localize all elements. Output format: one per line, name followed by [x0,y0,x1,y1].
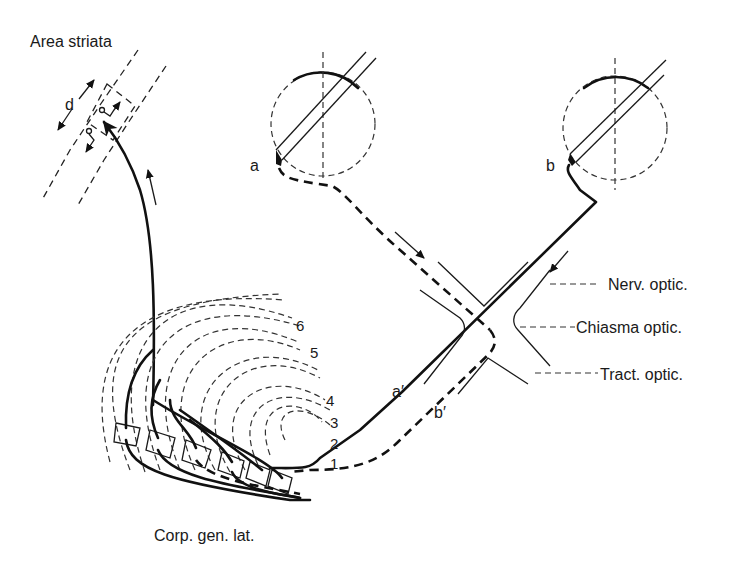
label-eye-b: b [546,157,555,174]
layer-1: 1 [330,455,338,472]
label-chiasma-optic: Chiasma optic. [576,319,682,336]
label-eye-a: a [250,157,259,174]
label-b-prime: b′ [434,404,446,421]
neuron-icon [100,108,105,113]
radiation-arrow-icon [148,170,156,205]
layer-5: 5 [310,344,318,361]
area-striata [42,50,166,205]
label-d: d [65,96,74,113]
layer-6: 6 [296,317,304,334]
label-corp-gen-lat: Corp. gen. lat. [154,527,255,544]
eye-a [271,52,490,330]
layer-4: 4 [326,392,334,409]
neuron-icon [87,129,92,134]
label-tract-optic: Tract. optic. [600,366,683,383]
label-area-striata: Area striata [30,33,112,50]
d-arrow-up-icon [79,80,94,99]
nerve-arrow-a-icon [395,232,424,258]
label-a-prime: a′ [392,383,404,400]
nerve-arrow-b-icon [550,251,568,272]
label-nerv-optic: Nerv. optic. [608,276,688,293]
chiasma-optic [420,262,550,394]
layer-3: 3 [330,414,338,431]
optic-radiation [104,122,154,405]
diagram-canvas: Area striata d a b Nerv. optic. C [0,0,756,565]
layer-2: 2 [330,435,338,452]
